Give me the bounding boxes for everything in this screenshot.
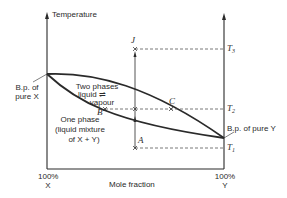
- x-axis-label: Mole fraction: [109, 180, 155, 189]
- point-c-label: C: [169, 97, 175, 106]
- t3-label: T3: [227, 44, 235, 56]
- point-a-label: A: [138, 136, 144, 145]
- heating-arrow-mid-icon: [134, 116, 137, 122]
- diagram-graphics: [0, 0, 287, 198]
- point-b-label: B: [97, 108, 103, 117]
- y-axis-left-arrow-icon: [45, 12, 49, 19]
- heating-arrow-top-icon: [134, 51, 137, 57]
- t1-label: T1: [227, 143, 235, 155]
- t2-label: T2: [227, 104, 235, 116]
- y-axis-right-arrow-icon: [222, 13, 226, 20]
- y-axis-label: Temperature: [52, 10, 97, 19]
- one-phase-region-label: One phase (liquid mixture of X + Y): [50, 115, 110, 145]
- bp-x-leader: [33, 74, 47, 82]
- bp-pure-y-label: B.p. of pure Y: [227, 124, 276, 133]
- point-j-label: J: [131, 36, 135, 45]
- two-phase-region-label: Two phases liquid ⇌ vapour: [68, 83, 126, 107]
- phase-diagram: Temperature Mole fraction 100% X 100% Y …: [0, 0, 287, 198]
- bp-pure-x-label: B.p. of pure X: [12, 83, 42, 101]
- x-left-label: 100% X: [38, 172, 58, 190]
- x-right-label: 100% Y: [213, 172, 237, 190]
